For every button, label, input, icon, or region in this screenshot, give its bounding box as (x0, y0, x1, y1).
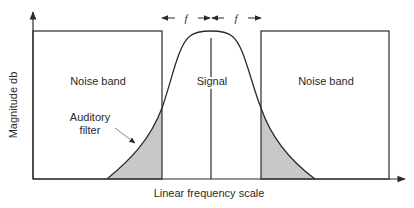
bandwidth-label-right: f (234, 12, 239, 24)
signal-label: Signal (197, 75, 228, 87)
bandwidth-label-left: f (184, 12, 189, 24)
auditory-filter-label-line1: Auditory (70, 111, 111, 123)
auditory-filter-label-line2: filter (80, 124, 101, 136)
noise-band-right-label: Noise band (298, 75, 354, 87)
auditory-filter-diagram: f f Noise band Noise band Signal Auditor… (0, 0, 414, 208)
y-axis-label: Magnitude db (7, 72, 19, 139)
auditory-filter-pointer (115, 128, 135, 143)
x-axis-label: Linear frequency scale (154, 187, 265, 199)
noise-band-left-label: Noise band (70, 75, 126, 87)
